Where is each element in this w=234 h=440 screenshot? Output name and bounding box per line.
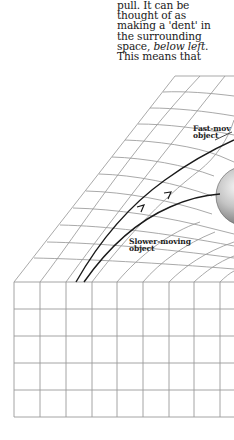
sphere-icon [216, 166, 234, 226]
warped-surface-grid [14, 76, 234, 282]
fast-object-label: Fast-mov object [193, 125, 231, 140]
slow-object-label: Slower-moving object [129, 238, 191, 253]
spacetime-diagram [0, 0, 234, 440]
front-face-grid [14, 282, 234, 417]
